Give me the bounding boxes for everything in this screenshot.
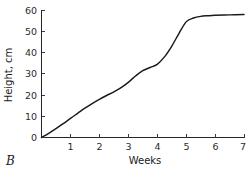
x-tick-label: 1 <box>67 141 73 152</box>
y-tick-label: 60 <box>25 5 37 16</box>
y-tick-label: 40 <box>25 47 37 58</box>
y-tick-label: 30 <box>25 68 37 79</box>
x-tick-label: 6 <box>212 141 218 152</box>
y-tick-label: 0 <box>31 132 37 143</box>
y-tick-label: 50 <box>25 26 37 37</box>
x-tick-label: 3 <box>125 141 131 152</box>
chart-figure: 0 10 20 30 40 50 60 1 2 3 4 5 6 7 Height… <box>0 0 246 170</box>
y-axis-title: Height, cm <box>3 48 14 103</box>
y-tick-label: 20 <box>25 90 37 101</box>
x-tick-label: 7 <box>240 141 246 152</box>
x-axis-title: Weeks <box>129 155 162 166</box>
x-tick-label: 5 <box>183 141 189 152</box>
y-tick-label: 10 <box>25 111 37 122</box>
x-tick-label: 4 <box>154 141 160 152</box>
growth-curve-chart: 0 10 20 30 40 50 60 1 2 3 4 5 6 7 Height… <box>0 0 246 170</box>
panel-label: B <box>5 154 15 168</box>
x-tick-label: 2 <box>96 141 102 152</box>
